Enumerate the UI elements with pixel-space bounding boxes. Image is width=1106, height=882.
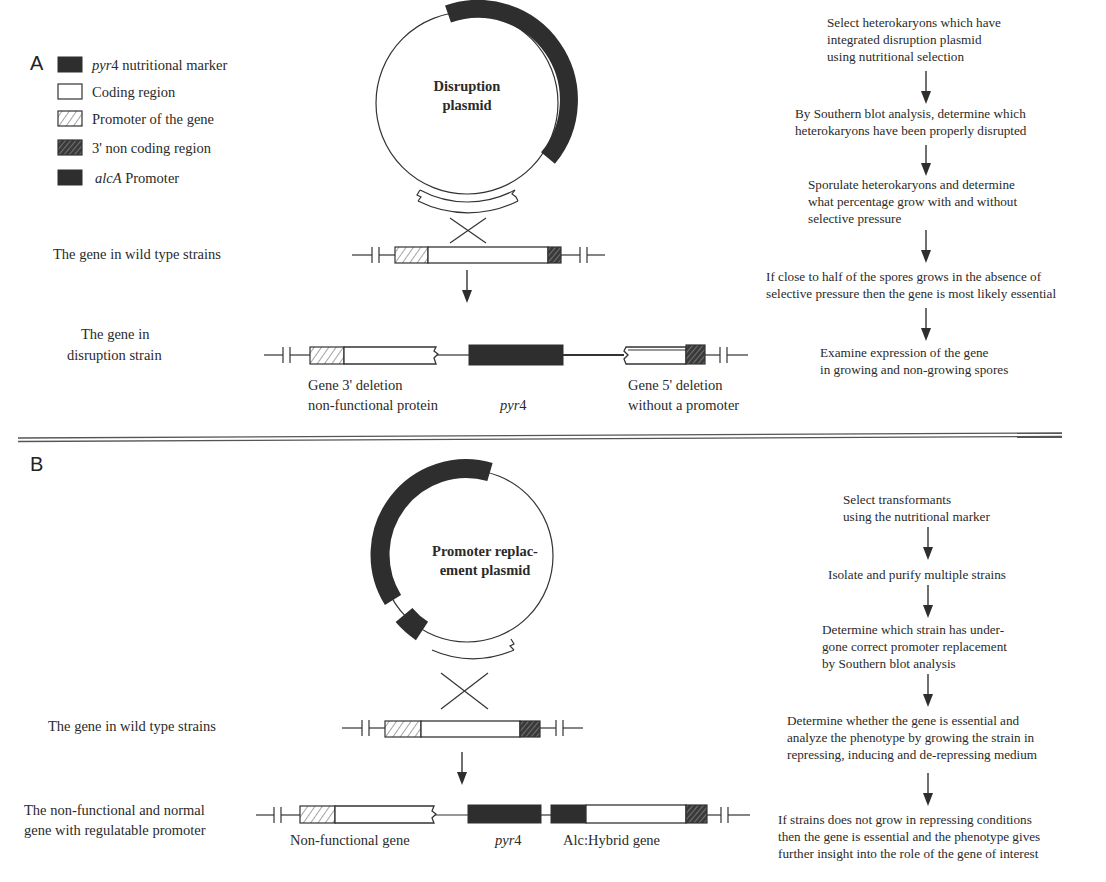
legend-pyr4-italic: pyr xyxy=(91,57,112,73)
step-b1-line2: using the nutritional marker xyxy=(843,509,990,524)
promoter-replacement-plasmid: Promoter replac- ement plasmid xyxy=(380,469,553,659)
coding-block xyxy=(586,805,686,823)
crossover-x-a xyxy=(450,218,486,243)
step-a5-line2: in growing and non-growing spores xyxy=(820,362,1008,377)
step-b5-line3: further insight into the role of the gen… xyxy=(778,846,1039,861)
step-arrow xyxy=(921,71,931,104)
legend-pyr4-text: 4 nutritional marker xyxy=(111,57,227,73)
alca-promoter-arc xyxy=(404,615,422,631)
step-arrow xyxy=(923,585,933,618)
fragment-right-b: Alc:Hybrid gene xyxy=(563,832,660,848)
legend: pyr4 nutritional marker Coding region Pr… xyxy=(58,57,227,186)
panel-a-label: A xyxy=(30,52,44,74)
plasmid-title-line2: ement plasmid xyxy=(440,562,531,578)
coding-block xyxy=(421,721,520,737)
step-b4-line1: Determine whether the gene is essential … xyxy=(787,713,1020,728)
step-a4-line1: If close to half of the spores grows in … xyxy=(766,269,1042,284)
noncoding-swatch xyxy=(58,140,82,155)
wild-type-label-b: The gene in wild type strains xyxy=(48,718,216,734)
fragment-break-left xyxy=(417,190,421,201)
plasmid-title-line1: Promoter replac- xyxy=(432,543,538,559)
legend-coding-text: Coding region xyxy=(92,84,176,100)
pyr4-arc xyxy=(380,469,490,600)
step-a1-line2: integrated disruption plasmid xyxy=(827,32,982,47)
plasmid-title-line1: Disruption xyxy=(434,78,501,94)
legend-promoter-text: Promoter of the gene xyxy=(92,111,214,127)
fragment-middle-italic-b: pyr xyxy=(494,832,515,848)
result-label-b-line1: The non-functional and normal xyxy=(24,802,205,818)
fragment-left-b: Non-functional gene xyxy=(290,832,410,848)
step-a2-line2: heterokaryons have been properly disrupt… xyxy=(795,123,1027,138)
step-a3-line1: Sporulate heterokaryons and determine xyxy=(808,177,1015,192)
fragment-left-line2-a: non-functional protein xyxy=(308,397,439,413)
step-b3-line2: gone correct promoter replacement xyxy=(822,639,1007,654)
fragment-right-line2-a: without a promoter xyxy=(628,397,739,413)
step-a3-line2: what percentage grow with and without xyxy=(808,194,1017,209)
fragment-middle-italic-a: pyr xyxy=(499,397,520,413)
truncated-coding-block xyxy=(344,347,438,364)
pyr4-block xyxy=(469,345,563,365)
noncoding-block xyxy=(520,721,540,737)
step-b3-line3: by Southern blot analysis xyxy=(822,656,956,671)
promoter-swatch xyxy=(58,111,82,126)
down-arrow-b xyxy=(457,752,467,785)
svg-text:pyr4: pyr4 xyxy=(499,397,527,413)
svg-text:pyr4 nutritional marker: pyr4 nutritional marker xyxy=(91,57,227,73)
fragment-arc-inner xyxy=(418,201,518,213)
legend-item-promoter: Promoter of the gene xyxy=(58,111,214,127)
result-label-b-line2: gene with regulatable promoter xyxy=(24,822,206,838)
legend-item-alca: alcA Promoter xyxy=(58,170,179,186)
promoter-block xyxy=(310,347,344,364)
wild-type-label-a: The gene in wild type strains xyxy=(53,246,221,262)
alca-promoter-block xyxy=(551,805,586,823)
svg-text:alcA Promoter: alcA Promoter xyxy=(95,170,179,186)
step-arrow xyxy=(923,773,933,806)
svg-text:pyr4: pyr4 xyxy=(494,832,522,848)
step-a1-line1: Select heterokaryons which have xyxy=(827,15,1001,30)
step-arrow xyxy=(923,527,933,560)
fragment-middle-rest-b: 4 xyxy=(514,832,522,848)
pyr4-swatch xyxy=(58,57,82,72)
legend-alca-text: Promoter xyxy=(122,170,180,186)
step-arrow xyxy=(923,674,933,707)
promoter-block xyxy=(385,721,421,737)
alca-swatch xyxy=(58,170,82,185)
panel-divider xyxy=(18,433,1062,442)
step-b1-line1: Select transformants xyxy=(843,492,951,507)
promoter-block xyxy=(300,806,335,823)
disruption-plasmid: Disruption plasmid xyxy=(376,9,569,213)
legend-item-coding: Coding region xyxy=(58,84,176,100)
coding-block xyxy=(428,247,548,263)
noncoding-block xyxy=(548,247,561,263)
fragment-left-line1-a: Gene 3' deletion xyxy=(308,377,403,393)
step-b5-line2: then the gene is essential and the pheno… xyxy=(778,829,1040,844)
fragment-arc-outer xyxy=(420,190,515,202)
step-arrow xyxy=(921,145,931,176)
wild-type-gene-b xyxy=(342,720,583,737)
step-b3-line1: Determine which strain has under- xyxy=(822,622,1004,637)
legend-item-noncoding: 3' non coding region xyxy=(58,140,212,156)
promoter-block xyxy=(395,247,428,263)
disruption-strain-gene xyxy=(264,345,748,365)
flow-steps-a: Select heterokaryons which have integrat… xyxy=(766,15,1056,377)
step-a5-line1: Examine expression of the gene xyxy=(820,345,989,360)
step-a3-line3: selective pressure xyxy=(808,211,902,226)
plasmid-title-line2: plasmid xyxy=(442,97,491,113)
crossover-x-b xyxy=(441,673,488,709)
result-label-a-line1: The gene in xyxy=(81,326,150,342)
truncated-coding-block xyxy=(335,806,436,823)
legend-noncoding-text: 3' non coding region xyxy=(92,140,212,156)
fragment-middle-rest-a: 4 xyxy=(519,397,527,413)
step-b4-line3: repressing, inducing and de-repressing m… xyxy=(787,747,1038,762)
panel-b-label: B xyxy=(30,453,43,475)
legend-alca-italic: alcA xyxy=(95,170,122,186)
coding-swatch xyxy=(58,84,82,99)
promoter-replaced-gene xyxy=(256,805,750,823)
fragment-right-line1-a: Gene 5' deletion xyxy=(628,377,723,393)
step-a2-line1: By Southern blot analysis, determine whi… xyxy=(795,106,1026,121)
step-arrow xyxy=(921,308,931,341)
step-a1-line3: using nutritional selection xyxy=(827,49,964,64)
step-b5-line1: If strains does not grow in repressing c… xyxy=(778,812,1032,827)
step-b2-line1: Isolate and purify multiple strains xyxy=(828,567,1006,582)
wild-type-gene-a xyxy=(352,247,605,263)
